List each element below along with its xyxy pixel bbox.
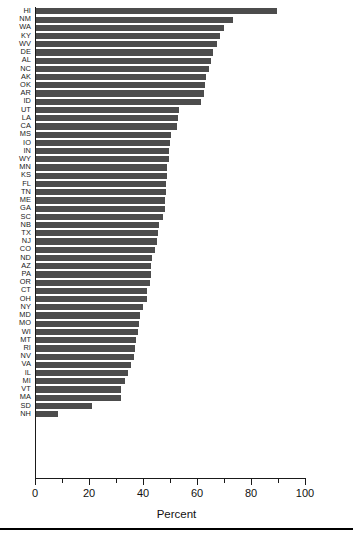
footer-rule	[0, 528, 353, 530]
x-axis-minor-tick	[170, 479, 171, 483]
bar	[35, 140, 170, 146]
x-axis-tick-label: 40	[137, 487, 149, 499]
bar	[35, 123, 177, 129]
x-axis-tick-label: 60	[191, 487, 203, 499]
bar	[35, 378, 125, 384]
bar	[35, 288, 147, 294]
y-axis-tick-label: NH	[20, 409, 31, 418]
bar	[35, 181, 166, 187]
bar-row: NH	[35, 410, 305, 419]
bar	[35, 90, 204, 96]
bar	[35, 337, 136, 343]
bar	[35, 247, 155, 253]
x-axis-major-tick	[89, 479, 90, 485]
bar	[35, 362, 131, 368]
bar	[35, 74, 206, 80]
bar	[35, 214, 163, 220]
bar	[35, 238, 157, 244]
x-axis-major-tick	[197, 479, 198, 485]
bar	[35, 403, 92, 409]
bar	[35, 8, 277, 14]
bar	[35, 386, 121, 392]
bar	[35, 296, 147, 302]
bar	[35, 49, 213, 55]
bar	[35, 58, 211, 64]
bar	[35, 173, 167, 179]
bar	[35, 41, 217, 47]
x-axis-tick-label: 100	[296, 487, 314, 499]
y-axis-line	[35, 7, 36, 479]
x-axis-major-tick	[35, 479, 36, 485]
x-axis-major-tick	[143, 479, 144, 485]
bar	[35, 115, 178, 121]
x-axis-tick-label: 20	[83, 487, 95, 499]
bar	[35, 312, 140, 318]
bar	[35, 304, 143, 310]
bar	[35, 99, 201, 105]
bar	[35, 17, 233, 23]
bar	[35, 329, 138, 335]
bar	[35, 164, 167, 170]
bar-chart: HINMWAKYWVDEALNCAKOKARIDUTLACAMSIOINWYMN…	[0, 0, 353, 535]
bar	[35, 271, 151, 277]
bar	[35, 148, 169, 154]
bar	[35, 156, 169, 162]
bar	[35, 263, 151, 269]
x-axis-minor-tick	[278, 479, 279, 483]
bar	[35, 66, 209, 72]
bar	[35, 25, 224, 31]
bar	[35, 132, 171, 138]
bar	[35, 222, 159, 228]
x-axis-minor-tick	[224, 479, 225, 483]
bar	[35, 189, 166, 195]
bar	[35, 354, 134, 360]
bar	[35, 411, 58, 417]
x-axis-tick-label: 80	[245, 487, 257, 499]
bar	[35, 370, 128, 376]
x-axis-major-tick	[251, 479, 252, 485]
bar	[35, 230, 158, 236]
x-axis-major-tick	[305, 479, 306, 485]
bar	[35, 82, 205, 88]
x-axis-minor-tick	[62, 479, 63, 483]
bar	[35, 280, 150, 286]
x-axis-label: Percent	[0, 508, 353, 520]
bar	[35, 321, 139, 327]
plot-area: HINMWAKYWVDEALNCAKOKARIDUTLACAMSIOINWYMN…	[35, 7, 305, 418]
bar	[35, 197, 165, 203]
bar	[35, 206, 165, 212]
bar	[35, 395, 121, 401]
x-axis-minor-tick	[116, 479, 117, 483]
bar	[35, 33, 220, 39]
bar	[35, 345, 135, 351]
x-axis-tick-label: 0	[32, 487, 38, 499]
bar	[35, 107, 179, 113]
bar	[35, 255, 152, 261]
